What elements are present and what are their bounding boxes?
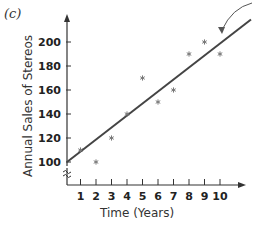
data-point-asterisk-icon (156, 99, 161, 104)
scatter-chart: 10012014016018020012345678910 (0, 0, 255, 230)
x-tick-label: 7 (170, 190, 178, 203)
data-point-asterisk-icon (94, 159, 99, 164)
y-tick-label: 200 (38, 36, 61, 49)
data-point-asterisk-icon (218, 51, 223, 56)
y-tick-label: 180 (38, 60, 61, 73)
x-tick-label: 10 (212, 190, 228, 203)
annotation-arrow-curve (222, 3, 252, 30)
data-point-asterisk-icon (187, 51, 192, 56)
data-point-asterisk-icon (202, 39, 207, 44)
x-tick-label: 8 (185, 190, 193, 203)
annotation-arrow-head-icon (218, 27, 225, 34)
x-tick-label: 3 (108, 190, 116, 203)
x-tick-label: 2 (92, 190, 100, 203)
data-point-asterisk-icon (140, 75, 145, 80)
y-tick-label: 120 (38, 132, 61, 145)
y-tick-label: 160 (38, 84, 61, 97)
y-axis-arrow-icon (64, 14, 70, 22)
x-tick-label: 9 (201, 190, 209, 203)
y-tick-label: 100 (38, 156, 61, 169)
x-tick-label: 4 (123, 190, 131, 203)
x-axis-arrow-icon (238, 182, 246, 188)
x-tick-label: 6 (154, 190, 162, 203)
y-tick-label: 140 (38, 108, 61, 121)
x-tick-label: 1 (77, 190, 85, 203)
data-point-asterisk-icon (171, 87, 176, 92)
data-point-asterisk-icon (109, 135, 114, 140)
x-tick-label: 5 (139, 190, 147, 203)
trend-line (67, 20, 251, 162)
